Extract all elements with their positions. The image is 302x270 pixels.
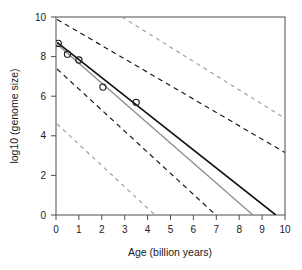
chart-figure: 0 1 2 3 4 5 6 7 8 9 10 0 2 4 6 8 [0,0,302,270]
x-axis-ticks [56,215,285,220]
x-tick-label-8: 8 [236,224,242,235]
x-tick-label-1: 1 [76,224,82,235]
y-axis-title: log10 (genome size) [8,68,20,163]
y-tick-label-0: 0 [40,210,46,221]
x-tick-label-4: 4 [145,224,151,235]
x-tick-label-2: 2 [99,224,105,235]
x-axis-title: Age (billion years) [128,246,212,258]
x-tick-label-9: 9 [259,224,265,235]
x-tick-label-5: 5 [168,224,174,235]
y-axis-ticks [51,17,56,215]
scatter-plot-svg: 0 1 2 3 4 5 6 7 8 9 10 0 2 4 6 8 [0,0,302,270]
x-axis-tick-labels: 0 1 2 3 4 5 6 7 8 9 10 [53,224,291,235]
y-tick-label-4: 4 [40,130,46,141]
y-tick-label-6: 6 [40,91,46,102]
y-tick-label-2: 2 [40,170,46,181]
x-tick-label-6: 6 [191,224,197,235]
x-tick-label-3: 3 [122,224,128,235]
x-tick-label-7: 7 [214,224,220,235]
y-tick-label-8: 8 [40,51,46,62]
y-tick-label-10: 10 [35,12,47,23]
x-tick-label-10: 10 [279,224,291,235]
y-axis-tick-labels: 0 2 4 6 8 10 [35,12,47,221]
x-tick-label-0: 0 [53,224,59,235]
